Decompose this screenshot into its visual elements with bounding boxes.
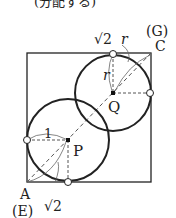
- label-sqrt2r-root: √2: [94, 31, 112, 47]
- label-sqrt2: √2: [44, 198, 62, 214]
- header-partial-text: (分配する): [34, 0, 96, 9]
- geometry-diagram: (分配する) P Q 1 r A (E) √2 C (G) √2 r: [0, 0, 176, 218]
- label-corner-G: (G): [146, 23, 168, 39]
- square-outline: [27, 53, 151, 182]
- center-P-dot: [66, 138, 70, 142]
- label-radius-1: 1: [44, 126, 52, 141]
- label-sqrt2r-var: r: [121, 31, 129, 47]
- label-Q: Q: [108, 98, 120, 116]
- label-corner-C: C: [155, 38, 166, 54]
- tangent-point-Q-right: [147, 90, 154, 97]
- label-P: P: [73, 142, 83, 160]
- tangent-point-P-bottom: [65, 179, 72, 186]
- center-Q-dot: [111, 91, 115, 95]
- tangent-point-Q-top: [110, 51, 117, 58]
- tangent-point-P-left: [24, 137, 31, 144]
- label-corner-A: A: [19, 186, 31, 202]
- label-corner-E: (E): [12, 203, 33, 218]
- diagonal-AC: [27, 53, 151, 182]
